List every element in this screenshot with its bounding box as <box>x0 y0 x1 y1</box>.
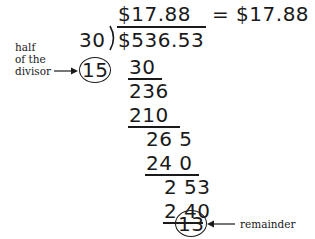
step-3: 210 <box>129 105 169 125</box>
dividend: $536.53 <box>118 30 204 50</box>
step-6: 2 53 <box>164 177 211 197</box>
half-divisor-label-line-2: of the <box>15 53 46 65</box>
step-2: 236 <box>129 81 169 101</box>
divisor: 30 <box>79 30 105 50</box>
division-bracket <box>108 26 118 52</box>
half-divisor-label-line-1: half <box>15 41 35 53</box>
remainder-label: remainder <box>240 218 296 230</box>
arrow-right-icon <box>54 66 80 76</box>
step-1: 30 <box>129 57 155 77</box>
step-5: 24 0 <box>146 153 193 173</box>
arrow-left-icon <box>207 219 237 229</box>
half-divisor-value: 15 <box>82 60 108 80</box>
equals-result: = $17.88 <box>212 4 309 24</box>
step-4: 26 5 <box>146 129 193 149</box>
half-divisor-label-line-3: divisor <box>15 65 51 77</box>
remainder-value: 13 <box>178 214 204 234</box>
quotient: $17.88 <box>118 4 191 24</box>
